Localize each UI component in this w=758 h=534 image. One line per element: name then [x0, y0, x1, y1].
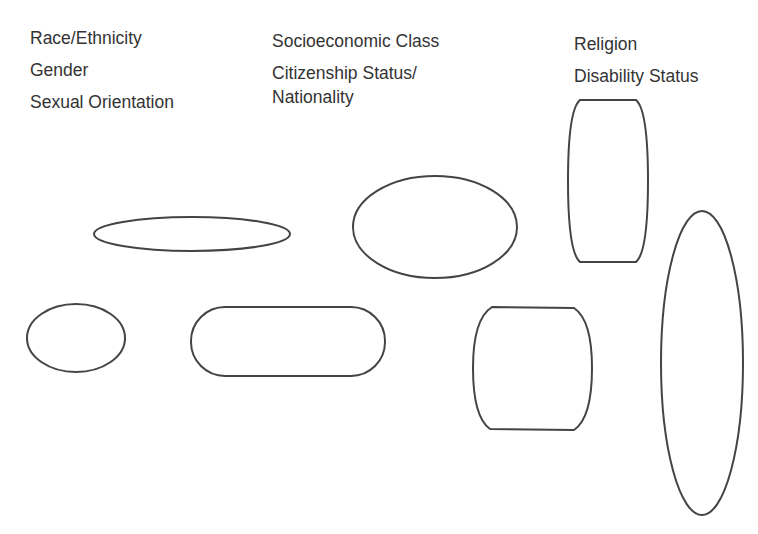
tall-ellipse-shape [661, 211, 743, 515]
small-ellipse-shape [27, 304, 125, 372]
shapes-canvas [0, 0, 758, 534]
large-ellipse-shape [353, 176, 517, 278]
tall-barrel-shape [568, 100, 648, 262]
flat-ellipse-shape [94, 217, 290, 251]
square-barrel-shape [473, 307, 592, 430]
pill-shape [191, 307, 385, 376]
